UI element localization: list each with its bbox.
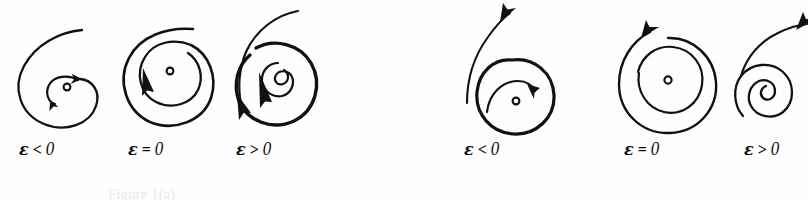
portrait-subcritical-eps-pos xyxy=(726,14,808,134)
nested-spiral-drawing xyxy=(112,14,224,134)
inward-spiral-drawing xyxy=(8,14,126,134)
portrait-subcritical-eps-neg xyxy=(450,2,574,138)
figure-sheet: ε<0 ε=0 xyxy=(0,0,808,200)
outward-spiral-drawing xyxy=(726,14,808,134)
portrait-supercritical-eps-zero xyxy=(112,14,224,134)
panel-subcritical: ε<0 ε=0 ε xyxy=(404,0,808,200)
relation-symbol: > xyxy=(755,140,771,158)
equilibrium-point-marker xyxy=(664,76,671,83)
limit-cycle-drawing xyxy=(212,8,332,136)
relation-value: 0 xyxy=(771,139,781,159)
relation-value: 0 xyxy=(46,139,56,159)
relation-symbol: < xyxy=(475,140,491,158)
portrait-subcritical-eps-zero xyxy=(604,14,726,138)
relation-value: 0 xyxy=(491,139,501,159)
case-label-supercritical-eps-neg: ε<0 xyxy=(19,139,55,160)
epsilon-symbol: ε xyxy=(236,139,247,159)
portrait-supercritical-eps-pos xyxy=(212,8,332,136)
epsilon-symbol: ε xyxy=(744,139,755,159)
equilibrium-point-marker xyxy=(513,98,520,105)
relation-value: 0 xyxy=(155,139,165,159)
nested-outward-spiral-drawing xyxy=(604,14,726,138)
epsilon-symbol: ε xyxy=(19,139,30,159)
relation-symbol: < xyxy=(30,140,46,158)
epsilon-symbol: ε xyxy=(464,139,475,159)
epsilon-symbol: ε xyxy=(128,139,139,159)
equilibrium-point-marker xyxy=(64,84,71,91)
case-label-subcritical-eps-neg: ε<0 xyxy=(464,139,500,160)
unstable-limit-cycle-drawing xyxy=(450,2,574,138)
relation-value: 0 xyxy=(651,139,661,159)
figure-caption-left: Figure 1(a) xyxy=(108,186,175,200)
epsilon-symbol: ε xyxy=(624,139,635,159)
case-label-subcritical-eps-pos: ε>0 xyxy=(744,139,780,160)
relation-symbol: > xyxy=(247,140,263,158)
relation-symbol: = xyxy=(635,140,651,158)
case-label-supercritical-eps-pos: ε>0 xyxy=(236,139,272,160)
relation-symbol: = xyxy=(139,140,155,158)
panel-supercritical: ε<0 ε=0 xyxy=(0,0,404,200)
relation-value: 0 xyxy=(263,139,273,159)
case-label-subcritical-eps-zero: ε=0 xyxy=(624,139,660,160)
case-label-supercritical-eps-zero: ε=0 xyxy=(128,139,164,160)
portrait-supercritical-eps-neg xyxy=(8,14,126,134)
equilibrium-point-marker xyxy=(167,68,174,75)
